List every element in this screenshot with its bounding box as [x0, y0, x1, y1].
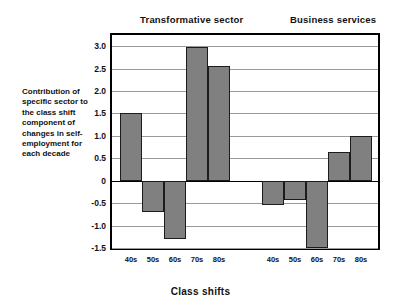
y-axis-tick-label: 1.0	[80, 131, 106, 141]
bar	[306, 181, 328, 248]
gridline	[112, 69, 378, 70]
y-axis-tick-label: 0	[80, 176, 106, 186]
x-axis-tick-label: 70s	[191, 255, 204, 264]
bar	[164, 181, 186, 239]
y-axis-tick-label: 2.5	[80, 64, 106, 74]
gridline	[112, 113, 378, 114]
y-axis-tick-label: 2.0	[80, 86, 106, 96]
group-title-business-services: Business services	[290, 14, 376, 25]
bar	[120, 113, 142, 180]
y-axis-tick-label: -1.0	[80, 221, 106, 231]
y-axis-tick-label: 3.0	[80, 41, 106, 51]
bar	[350, 136, 372, 181]
y-axis-tick-label: -0.5	[80, 198, 106, 208]
x-axis-tick-labels: 40s50s60s70s80s40s50s60s70s80s	[110, 255, 380, 269]
x-axis-tick-label: 70s	[333, 255, 346, 264]
x-axis-tick-label: 50s	[289, 255, 302, 264]
y-axis-tick-labels: 3.02.52.01.51.00.50-0.5-1.0-1.5	[78, 33, 106, 250]
bar	[328, 152, 350, 180]
gridline	[112, 248, 378, 249]
x-axis-tick-label: 60s	[169, 255, 182, 264]
gridline	[112, 91, 378, 92]
bar	[142, 181, 164, 212]
plot-area	[110, 33, 380, 250]
bar	[284, 181, 306, 200]
plot-inner	[112, 35, 378, 248]
gridline	[112, 136, 378, 137]
y-axis-tick-label: -1.5	[80, 243, 106, 253]
gridline	[112, 46, 378, 47]
x-axis-tick-label: 40s	[267, 255, 280, 264]
x-axis-title: Class shifts	[0, 286, 401, 297]
bar	[186, 47, 208, 181]
x-axis-tick-label: 80s	[355, 255, 368, 264]
bar	[208, 66, 230, 180]
bar-chart: Transformative sector Business services …	[0, 0, 401, 307]
x-axis-tick-label: 40s	[125, 255, 138, 264]
gridline	[112, 226, 378, 227]
x-axis-tick-label: 50s	[147, 255, 160, 264]
group-title-transformative-sector: Transformative sector	[140, 14, 243, 25]
x-axis-tick-label: 80s	[213, 255, 226, 264]
y-axis-tick-label: 1.5	[80, 108, 106, 118]
x-axis-tick-label: 60s	[311, 255, 324, 264]
bar	[262, 181, 284, 206]
y-axis-tick-label: 0.5	[80, 153, 106, 163]
